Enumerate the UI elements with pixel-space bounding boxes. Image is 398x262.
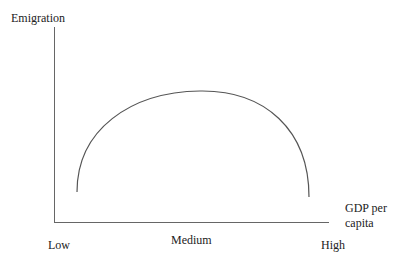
tick-medium: Medium [171,233,212,247]
tick-low: Low [48,238,70,252]
hump-chart [0,0,398,262]
x-axis-label-line1: GDP per [345,201,387,215]
emigration-curve [77,91,309,197]
x-axis-label-line2: capita [345,216,374,230]
tick-high: High [321,238,345,252]
